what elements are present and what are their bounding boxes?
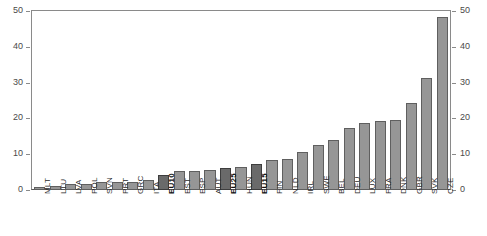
y-tick-right-label: 10 bbox=[460, 149, 470, 158]
bar-slot bbox=[34, 11, 45, 190]
y-tick-right-mark bbox=[452, 11, 456, 12]
bar-slot bbox=[313, 11, 324, 190]
y-tick-right-mark bbox=[452, 154, 456, 155]
x-label-irl: IRL bbox=[306, 181, 315, 194]
y-tick-left-label: 20 bbox=[13, 113, 23, 122]
y-tick-left-label: 0 bbox=[18, 185, 23, 194]
y-tick-right-mark bbox=[452, 118, 456, 119]
y-tick-left-label: 10 bbox=[13, 149, 23, 158]
bar-slot bbox=[266, 11, 277, 190]
y-axis-left: 01020304050 bbox=[0, 10, 30, 190]
chart-title-remnant: · · bbox=[0, 0, 487, 3]
bar-slot bbox=[344, 11, 355, 190]
bar-slot bbox=[437, 11, 448, 190]
y-tick-left-label: 30 bbox=[13, 78, 23, 87]
y-tick-left-mark bbox=[26, 118, 30, 119]
bar-slot bbox=[189, 11, 200, 190]
x-label-pol: POL bbox=[90, 177, 99, 194]
bar-cze[interactable] bbox=[437, 17, 448, 190]
bar-slot bbox=[158, 11, 169, 190]
y-tick-right-label: 0 bbox=[460, 185, 465, 194]
x-label-dnk: DNK bbox=[399, 177, 408, 195]
x-label-svn: SVN bbox=[105, 177, 114, 194]
x-label-esp: ESP bbox=[198, 177, 207, 194]
bar-slot bbox=[251, 11, 262, 190]
bar-slot bbox=[359, 11, 370, 190]
x-label-eu10: EU10 bbox=[167, 173, 176, 194]
bar-slot bbox=[204, 11, 215, 190]
bar-slot bbox=[282, 11, 293, 190]
bar-slot bbox=[50, 11, 61, 190]
x-label-aut: AUT bbox=[214, 177, 223, 194]
x-label-lux: LUX bbox=[368, 178, 377, 194]
bar-chart: · · 01020304050 01020304050 MLTLTULVAPOL… bbox=[0, 0, 487, 236]
bar-slot bbox=[406, 11, 417, 190]
x-label-ita: ITA bbox=[152, 182, 161, 194]
y-tick-right-mark bbox=[452, 47, 456, 48]
x-label-cze: CZE bbox=[446, 177, 455, 194]
bar-slot bbox=[328, 11, 339, 190]
x-label-ltu: LTU bbox=[59, 179, 68, 194]
bar-slot bbox=[65, 11, 76, 190]
bar-svk[interactable] bbox=[421, 78, 432, 190]
x-label-eu15: EU15 bbox=[260, 173, 269, 194]
x-axis-labels: MLTLTULVAPOLSVNPRTGRCITAEU10ESTESPAUTEU2… bbox=[32, 192, 450, 236]
bar-slot bbox=[235, 11, 246, 190]
y-axis-right: 01020304050 bbox=[452, 10, 482, 190]
x-label-bel: BEL bbox=[337, 178, 346, 194]
y-tick-left-label: 40 bbox=[13, 42, 23, 51]
bar-slot bbox=[174, 11, 185, 190]
x-label-lva: LVA bbox=[74, 179, 83, 194]
x-label-fra: FRA bbox=[384, 177, 393, 194]
y-tick-right-mark bbox=[452, 83, 456, 84]
x-label-swe: SWE bbox=[322, 175, 331, 194]
bar-slot bbox=[297, 11, 308, 190]
x-label-svk: SVK bbox=[430, 177, 439, 194]
y-tick-left-mark bbox=[26, 11, 30, 12]
bar-slot bbox=[375, 11, 386, 190]
x-label-eu25: EU25 bbox=[229, 173, 238, 194]
bar-slot bbox=[96, 11, 107, 190]
x-label-nld: NLD bbox=[291, 177, 300, 194]
x-label-est: EST bbox=[183, 178, 192, 194]
x-label-hun: HUN bbox=[245, 176, 254, 194]
y-tick-left-label: 50 bbox=[13, 6, 23, 15]
bar-slot bbox=[143, 11, 154, 190]
bar-slot bbox=[421, 11, 432, 190]
bar-slot bbox=[390, 11, 401, 190]
bar-slot bbox=[112, 11, 123, 190]
y-tick-left-mark bbox=[26, 190, 30, 191]
y-tick-left-mark bbox=[26, 154, 30, 155]
y-tick-right-label: 30 bbox=[460, 78, 470, 87]
y-tick-right-label: 20 bbox=[460, 113, 470, 122]
bar-slot bbox=[127, 11, 138, 190]
y-tick-right-label: 50 bbox=[460, 6, 470, 15]
x-label-mlt: MLT bbox=[43, 178, 52, 194]
bar-slot bbox=[220, 11, 231, 190]
bar-slot bbox=[81, 11, 92, 190]
x-label-deu: DEU bbox=[353, 177, 362, 195]
bars-container bbox=[32, 11, 450, 190]
y-tick-left-mark bbox=[26, 47, 30, 48]
x-label-grc: GRC bbox=[136, 176, 145, 194]
y-tick-right-label: 40 bbox=[460, 42, 470, 51]
x-label-gbr: GBR bbox=[415, 176, 424, 194]
y-tick-left-mark bbox=[26, 83, 30, 84]
x-label-fin: FIN bbox=[275, 181, 284, 195]
x-label-prt: PRT bbox=[121, 178, 130, 194]
